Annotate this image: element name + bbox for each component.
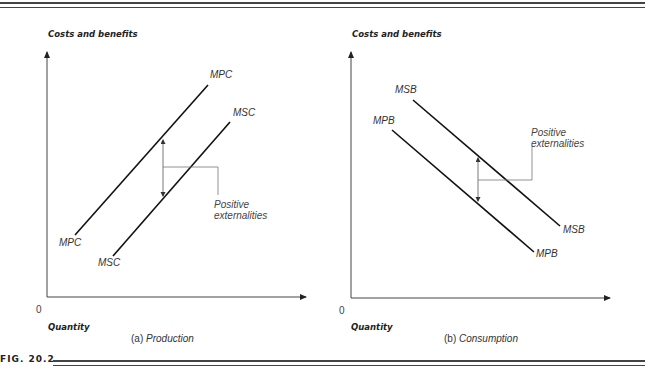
panel-b-caption-letter: (b)	[444, 333, 456, 344]
panel-b-caption: (b) Consumption	[444, 333, 518, 344]
panel-b-axes	[351, 52, 610, 298]
panel-a-caption: (a) Production	[131, 333, 194, 344]
panel-a-caption-letter: (a)	[131, 333, 143, 344]
bottom-double-rule	[53, 360, 645, 366]
mpc-curve	[75, 85, 208, 235]
mpb-curve	[392, 130, 534, 252]
panel-b-origin-label: 0	[339, 305, 345, 316]
msb-curve	[413, 100, 560, 226]
panel-a-y-axis-title: Costs and benefits	[48, 29, 138, 39]
panel-b-externalities-line2: externalities	[531, 138, 584, 149]
panel-a-caption-name: Production	[146, 333, 194, 344]
panel-a-origin-label: 0	[36, 304, 42, 315]
mpb-end-label: MPB	[536, 248, 558, 259]
msb-end-label: MSB	[563, 224, 585, 235]
panel-b-externalities-label: Positive externalities	[531, 127, 584, 149]
panel-a-externalities-label: Positive externalities	[214, 199, 267, 221]
msc-start-label: MSC	[98, 257, 120, 268]
figure-plots	[0, 0, 653, 374]
panel-a-externalities-line2: externalities	[214, 210, 267, 221]
mpc-start-label: MPC	[59, 237, 81, 248]
panel-a-x-axis-title: Quantity	[48, 322, 90, 332]
panel-b-x-axis-title: Quantity	[351, 322, 393, 332]
msb-start-label: MSB	[395, 84, 417, 95]
msc-end-label: MSC	[233, 107, 255, 118]
panel-a-externalities-line1: Positive	[214, 199, 267, 210]
panel-b-caption-name: Consumption	[459, 333, 518, 344]
panel-b-y-axis-title: Costs and benefits	[352, 29, 442, 39]
panel-a-axes	[47, 52, 306, 297]
mpb-start-label: MPB	[373, 115, 395, 126]
msc-curve	[113, 122, 230, 256]
panel-a-leader-line	[163, 167, 218, 195]
figure-label: FIG. 20.2	[0, 354, 55, 364]
mpc-end-label: MPC	[210, 69, 232, 80]
panel-b-externalities-line1: Positive	[531, 127, 584, 138]
